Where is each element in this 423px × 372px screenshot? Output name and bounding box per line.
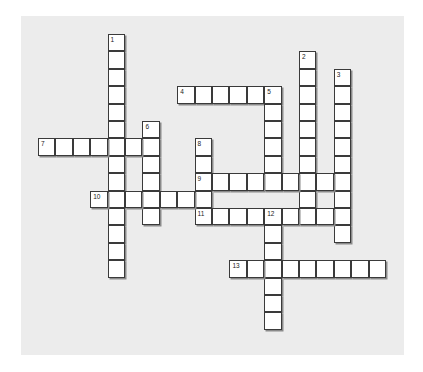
crossword-cell[interactable] xyxy=(299,173,316,190)
crossword-cell[interactable] xyxy=(299,69,316,86)
clue-number: 8 xyxy=(198,140,202,147)
crossword-cell[interactable] xyxy=(264,156,281,173)
crossword-cell[interactable] xyxy=(316,260,333,277)
crossword-cell[interactable]: 1 xyxy=(108,34,125,51)
crossword-cell[interactable] xyxy=(264,138,281,155)
crossword-cell[interactable] xyxy=(282,260,299,277)
crossword-cell[interactable] xyxy=(108,260,125,277)
crossword-cell[interactable] xyxy=(282,173,299,190)
crossword-cell[interactable] xyxy=(177,191,194,208)
crossword-cell[interactable] xyxy=(334,208,351,225)
crossword-cell[interactable] xyxy=(299,86,316,103)
crossword-cell[interactable] xyxy=(195,86,212,103)
crossword-cell[interactable] xyxy=(334,138,351,155)
crossword-cell[interactable]: 10 xyxy=(90,191,107,208)
crossword-cell[interactable] xyxy=(142,156,159,173)
clue-number: 7 xyxy=(41,140,45,147)
crossword-cell[interactable] xyxy=(108,243,125,260)
crossword-cell[interactable]: 11 xyxy=(195,208,212,225)
crossword-cell[interactable]: 8 xyxy=(195,138,212,155)
crossword-cell[interactable] xyxy=(125,138,142,155)
crossword-cell[interactable] xyxy=(247,86,264,103)
crossword-cell[interactable] xyxy=(316,208,333,225)
crossword-grid: 12345678911101213 xyxy=(0,0,423,372)
crossword-cell[interactable] xyxy=(142,191,159,208)
crossword-cell[interactable] xyxy=(264,260,281,277)
crossword-cell[interactable] xyxy=(299,191,316,208)
crossword-cell[interactable] xyxy=(247,208,264,225)
crossword-cell[interactable] xyxy=(282,208,299,225)
crossword-cell[interactable] xyxy=(108,138,125,155)
crossword-cell[interactable] xyxy=(108,104,125,121)
crossword-cell[interactable] xyxy=(264,295,281,312)
crossword-cell[interactable] xyxy=(264,225,281,242)
crossword-cell[interactable] xyxy=(299,208,316,225)
clue-number: 4 xyxy=(180,88,184,95)
crossword-cell[interactable] xyxy=(264,278,281,295)
crossword-cell[interactable] xyxy=(142,138,159,155)
crossword-cell[interactable] xyxy=(334,156,351,173)
crossword-cell[interactable] xyxy=(212,86,229,103)
crossword-cell[interactable] xyxy=(108,173,125,190)
crossword-cell[interactable] xyxy=(142,208,159,225)
clue-number: 5 xyxy=(267,88,271,95)
crossword-cell[interactable] xyxy=(264,312,281,329)
crossword-cell[interactable] xyxy=(108,69,125,86)
crossword-cell[interactable] xyxy=(229,173,246,190)
crossword-cell[interactable] xyxy=(369,260,386,277)
crossword-cell[interactable] xyxy=(142,173,159,190)
crossword-cell[interactable] xyxy=(334,225,351,242)
crossword-cell[interactable] xyxy=(125,191,142,208)
crossword-cell[interactable] xyxy=(160,191,177,208)
crossword-cell[interactable] xyxy=(264,173,281,190)
crossword-cell[interactable]: 7 xyxy=(38,138,55,155)
crossword-cell[interactable] xyxy=(334,191,351,208)
crossword-cell[interactable] xyxy=(299,138,316,155)
crossword-cell[interactable]: 4 xyxy=(177,86,194,103)
crossword-cell[interactable] xyxy=(334,260,351,277)
crossword-cell[interactable]: 9 xyxy=(195,173,212,190)
crossword-cell[interactable] xyxy=(212,208,229,225)
crossword-cell[interactable] xyxy=(108,51,125,68)
crossword-cell[interactable] xyxy=(108,121,125,138)
crossword-cell[interactable] xyxy=(351,260,368,277)
crossword-cell[interactable] xyxy=(247,173,264,190)
crossword-cell[interactable] xyxy=(264,243,281,260)
crossword-cell[interactable] xyxy=(299,260,316,277)
crossword-cell[interactable] xyxy=(55,138,72,155)
crossword-cell[interactable] xyxy=(299,104,316,121)
crossword-cell[interactable] xyxy=(264,104,281,121)
clue-number: 10 xyxy=(93,193,100,200)
crossword-cell[interactable] xyxy=(195,191,212,208)
crossword-cell[interactable] xyxy=(299,156,316,173)
clue-number: 9 xyxy=(198,175,202,182)
crossword-cell[interactable] xyxy=(108,191,125,208)
crossword-cell[interactable]: 2 xyxy=(299,51,316,68)
crossword-cell[interactable]: 13 xyxy=(229,260,246,277)
crossword-cell[interactable] xyxy=(90,138,107,155)
clue-number: 6 xyxy=(145,123,149,130)
crossword-cell[interactable] xyxy=(229,208,246,225)
crossword-cell[interactable]: 5 xyxy=(264,86,281,103)
crossword-cell[interactable] xyxy=(334,86,351,103)
crossword-cell[interactable] xyxy=(212,173,229,190)
crossword-cell[interactable] xyxy=(316,173,333,190)
crossword-cell[interactable] xyxy=(334,121,351,138)
clue-number: 1 xyxy=(111,36,115,43)
crossword-cell[interactable] xyxy=(229,86,246,103)
crossword-cell[interactable] xyxy=(108,208,125,225)
crossword-cell[interactable] xyxy=(247,260,264,277)
crossword-cell[interactable] xyxy=(73,138,90,155)
crossword-cell[interactable] xyxy=(264,121,281,138)
crossword-cell[interactable] xyxy=(108,225,125,242)
crossword-cell[interactable] xyxy=(299,121,316,138)
crossword-cell[interactable]: 3 xyxy=(334,69,351,86)
crossword-cell[interactable] xyxy=(108,156,125,173)
crossword-cell[interactable] xyxy=(334,173,351,190)
crossword-cell[interactable] xyxy=(108,86,125,103)
clue-number: 12 xyxy=(267,210,274,217)
crossword-cell[interactable]: 12 xyxy=(264,208,281,225)
crossword-cell[interactable]: 6 xyxy=(142,121,159,138)
crossword-cell[interactable] xyxy=(334,104,351,121)
crossword-cell[interactable] xyxy=(195,156,212,173)
